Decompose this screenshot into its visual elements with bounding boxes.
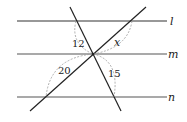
parallel-lines-diagram: 12 x 20 15 l m n <box>0 0 187 122</box>
label-line-l: l <box>170 15 174 28</box>
label-15: 15 <box>108 68 121 79</box>
label-12: 12 <box>72 38 85 49</box>
transversal-steep <box>70 7 121 111</box>
label-line-m: m <box>168 48 178 61</box>
transversal-diagonal <box>30 7 146 111</box>
label-line-n: n <box>168 91 175 104</box>
label-x: x <box>114 36 121 49</box>
label-20: 20 <box>58 65 71 76</box>
intersection-point <box>92 53 95 56</box>
